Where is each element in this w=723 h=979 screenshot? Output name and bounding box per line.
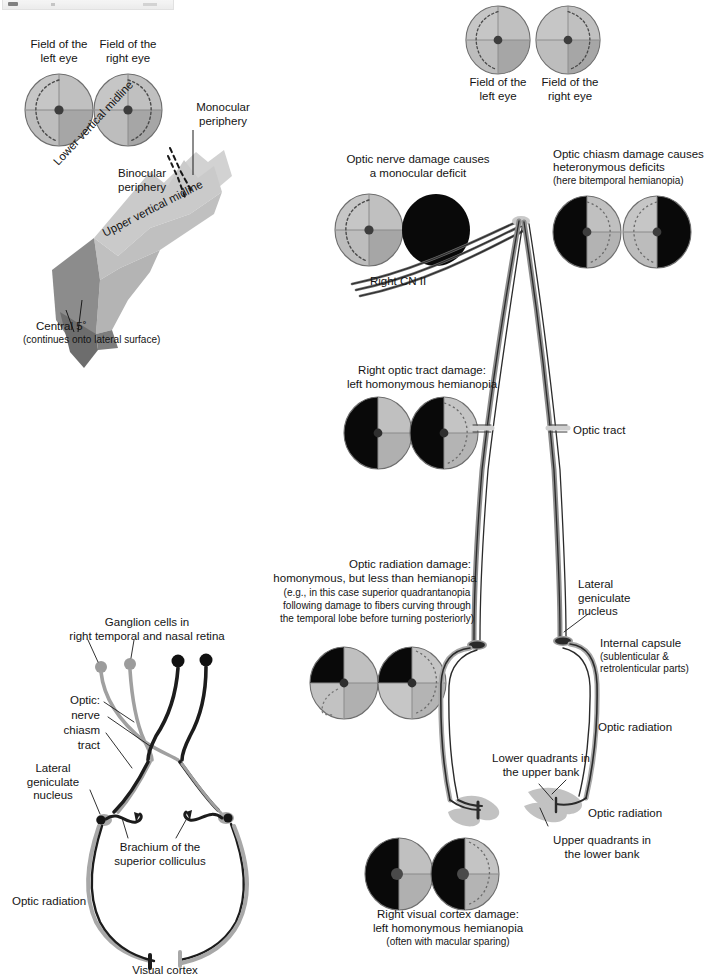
label-optic-chiasm-damage-line1: Optic chiasm damage causes (553, 148, 723, 162)
label-optic-tract-damage-line1: Right optic tract damage: (322, 364, 522, 378)
optic-radiation-damage-field-left (308, 645, 380, 721)
label-brachium-superior-colliculus: Brachium of the superior colliculus (95, 841, 225, 868)
main-visual-pathway-tracts (352, 216, 597, 826)
label-optic-radiation-upper: Optic radiation (598, 721, 718, 735)
label-optic-radiation-damage-line5: the temporal lobe before turning posteri… (237, 613, 517, 625)
label-lateral-geniculate-nucleus-main: Lateral geniculate nucleus (578, 578, 668, 619)
top-right-field-left-eye (464, 4, 532, 76)
label-optic-tract: Optic tract (573, 424, 683, 438)
visual-cortex-damage-field-left (363, 836, 435, 912)
label-top-right-field-right-eye: Field of the right eye (527, 76, 613, 103)
optic-tract-damage-field-right (408, 395, 480, 471)
label-optic-radiation-damage-line4: following damage to fibers curving throu… (237, 600, 517, 612)
label-lateral-geniculate-nucleus-schematic: Lateral geniculate nucleus (12, 762, 94, 803)
label-right-cn-ii: Right CN II (348, 275, 448, 289)
label-internal-capsule: Internal capsule (600, 637, 720, 651)
label-visual-cortex-damage-line2: left homonymous hemianopia (338, 922, 558, 936)
label-optic-nerve-damage-line2: a monocular deficit (318, 167, 518, 181)
visual-pathway-figure (0, 0, 723, 979)
label-lower-quadrants-upper-bank: Lower quadrants in the upper bank (466, 752, 616, 779)
label-optic-chiasm-damage-line2: heteronymous deficits (553, 161, 723, 175)
label-internal-capsule-note: (sublenticular & retrolenticular parts) (600, 651, 720, 675)
label-optic-radiation-damage-line1: Optic radiation damage: (265, 558, 555, 572)
visual-cortex-damage-field-right (429, 836, 501, 912)
label-optic-tract-damage-line2: left homonymous hemianopia (322, 378, 522, 392)
optic-tract-damage-field-left (342, 395, 414, 471)
label-optic-chiasm-damage-line3: (here bitemporal hemianopia) (553, 175, 723, 187)
optic-chiasm-damage-field-left (551, 194, 623, 270)
label-top-left-field-right-eye: Field of the right eye (85, 38, 171, 65)
optic-chiasm-damage-field-right (621, 194, 693, 270)
label-visual-cortex-damage-line3: (often with macular sparing) (338, 936, 558, 948)
label-optic-radiation-lower: Optic radiation (588, 807, 708, 821)
label-central-5-note: (continues onto lateral surface) (23, 334, 223, 346)
top-right-field-right-eye (534, 4, 602, 76)
label-optic-nerve-damage-line1: Optic nerve damage causes (318, 153, 518, 167)
label-ganglion-cells: Ganglion cells in right temporal and nas… (22, 616, 272, 643)
label-visual-cortex-damage-line1: Right visual cortex damage: (338, 908, 558, 922)
label-optic-radiation-damage-line2: homonymous, but less than hemianopia (230, 572, 520, 586)
label-optic-header: Optic: (20, 694, 100, 708)
label-binocular-periphery: Binocular periphery (97, 167, 187, 194)
label-optic-nerve: nerve (20, 709, 100, 723)
label-optic-radiation-damage-line3: (e.g., in this case superior quadrantano… (237, 587, 517, 599)
optic-nerve-damage-field-left (333, 192, 405, 268)
label-optic-tract: tract (20, 739, 100, 753)
pathway-schematic-drawing (88, 640, 247, 968)
label-monocular-periphery: Monocular periphery (178, 101, 268, 128)
label-optic-radiation-schematic: Optic radiation (12, 895, 122, 909)
label-upper-quadrants-lower-bank: Upper quadrants in the lower bank (527, 834, 677, 861)
optic-radiation-damage-field-right (376, 645, 448, 721)
label-visual-cortex: Visual cortex (110, 964, 220, 978)
label-optic-chiasm: chiasm (20, 724, 100, 738)
label-central-5-degrees: Central 5˚ (36, 320, 166, 334)
